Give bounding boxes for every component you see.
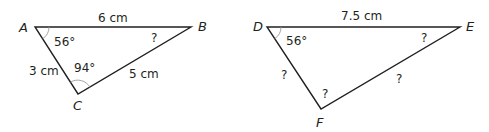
side-ab-label: 6 cm (98, 11, 128, 25)
angle-d-arc (275, 27, 281, 39)
angle-d-label: 56° (286, 34, 307, 48)
side-ac-label: 3 cm (29, 64, 59, 78)
side-bc-label: 5 cm (129, 67, 159, 81)
angle-c-label: 94° (74, 61, 95, 75)
angle-e-label: ? (421, 31, 427, 45)
vertex-f-label: F (316, 115, 324, 130)
angle-a-label: 56° (54, 35, 75, 49)
triangle-abc: A B C 6 cm 3 cm 5 cm 56° ? 94° (18, 11, 207, 113)
vertex-c-label: C (73, 98, 83, 113)
diagram-svg: A B C 6 cm 3 cm 5 cm 56° ? 94° D E F 7.5… (0, 0, 489, 132)
vertex-e-label: E (466, 19, 475, 34)
vertex-a-label: A (18, 20, 28, 35)
angle-f-label: ? (322, 87, 328, 101)
angle-b-label: ? (151, 31, 157, 45)
triangle-def: D E F 7.5 cm ? ? 56° ? ? (253, 9, 475, 130)
vertex-b-label: B (198, 19, 207, 34)
side-df-label: ? (281, 68, 287, 82)
angle-a-arc (43, 27, 49, 39)
similar-triangles-diagram: A B C 6 cm 3 cm 5 cm 56° ? 94° D E F 7.5… (0, 0, 489, 132)
vertex-d-label: D (253, 19, 263, 34)
side-ef-label: ? (396, 72, 402, 86)
side-de-label: 7.5 cm (341, 9, 382, 23)
